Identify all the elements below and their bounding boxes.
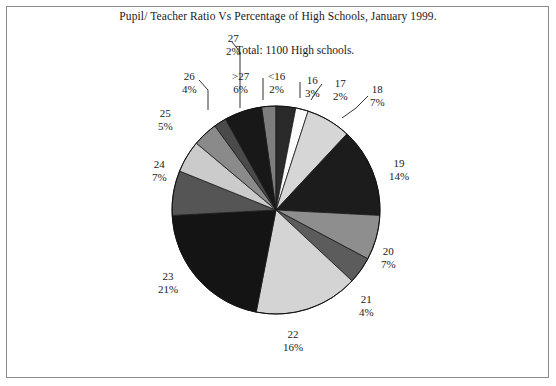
pie-chart [170,104,382,316]
slice-percent: 16% [283,341,303,354]
label-23: 2321% [158,270,178,295]
slice-category: 16 [305,74,320,87]
pie-svg [170,104,382,316]
slice-category: 19 [389,157,409,170]
label-24: 247% [152,158,167,183]
label-19: 1914% [389,157,409,182]
slice-category: 21 [359,293,374,306]
slice-category: 23 [158,270,178,283]
label-22: 2216% [283,328,303,353]
slice-percent: 3% [305,87,320,100]
slice-category: 27 [226,32,241,45]
slice-percent: 4% [182,83,197,96]
slice-category: 17 [333,77,348,90]
slice-category: 22 [283,328,303,341]
slice-category: 18 [370,83,385,96]
label-21: 214% [359,293,374,318]
label-lt16: <162% [268,70,285,95]
slice-category: 20 [381,245,396,258]
slice-percent: 5% [158,120,173,133]
slice-percent: 4% [359,306,374,319]
slice-category: 24 [152,158,167,171]
label-20: 207% [381,245,396,270]
label-25: 255% [158,107,173,132]
slice-percent: 7% [370,96,385,109]
chart-page: Pupil/ Teacher Ratio Vs Percentage of Hi… [0,0,556,386]
label-16: 163% [305,74,320,99]
label-27: 272% [226,32,241,57]
slice-percent: 2% [333,90,348,103]
label-17: 172% [333,77,348,102]
chart-subtitle: Total: 1100 High schools. [236,44,354,56]
slice-percent: 2% [226,45,241,58]
label-gt27: >276% [232,70,249,95]
slice-percent: 7% [152,171,167,184]
slice-category: <16 [268,70,285,83]
slice-percent: 2% [268,83,285,96]
slice-percent: 7% [381,258,396,271]
slice-category: 25 [158,107,173,120]
label-18: 187% [370,83,385,108]
slice-percent: 21% [158,283,178,296]
label-26: 264% [182,70,197,95]
slice-category: >27 [232,70,249,83]
slice-percent: 14% [389,170,409,183]
slice-percent: 6% [232,83,249,96]
slice-category: 26 [182,70,197,83]
chart-title: Pupil/ Teacher Ratio Vs Percentage of Hi… [0,10,556,22]
